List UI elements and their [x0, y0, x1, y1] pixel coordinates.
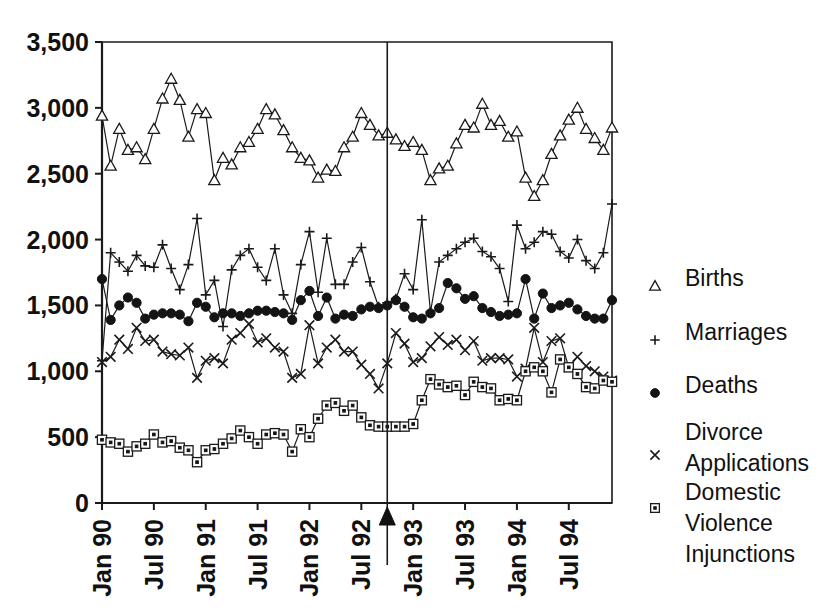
- marker-filled-circle: [547, 303, 556, 312]
- marker-cross: [581, 361, 591, 371]
- marker-square-dot: [412, 423, 415, 426]
- marker-filled-circle: [149, 310, 158, 319]
- marker-filled-circle: [339, 310, 348, 319]
- marker-plus: [417, 215, 427, 225]
- marker-open-triangle: [459, 119, 470, 129]
- marker-square-dot: [109, 441, 112, 444]
- marker-filled-circle: [452, 284, 461, 293]
- marker-cross: [201, 356, 211, 366]
- marker-open-triangle: [606, 122, 617, 132]
- marker-plus: [270, 244, 280, 254]
- marker-square-dot: [602, 379, 605, 382]
- marker-filled-circle: [478, 303, 487, 312]
- marker-plus: [607, 199, 617, 209]
- x-tick-label: Jan 93: [399, 519, 427, 597]
- marker-square-dot: [446, 386, 449, 389]
- marker-open-triangle: [96, 110, 107, 120]
- marker-filled-circle: [175, 310, 184, 319]
- marker-square-dot: [135, 445, 138, 448]
- marker-square-dot: [334, 402, 337, 405]
- marker-plus: [261, 275, 271, 285]
- marker-filled-circle: [374, 303, 383, 312]
- marker-filled-circle: [460, 294, 469, 303]
- marker-open-triangle: [537, 175, 548, 185]
- marker-cross: [287, 373, 297, 383]
- marker-square-dot: [464, 394, 467, 397]
- series-layer: [96, 73, 617, 466]
- marker-cross: [538, 357, 548, 367]
- marker-filled-circle: [435, 303, 444, 312]
- marker-filled-circle: [538, 289, 547, 298]
- multi-series-line-chart: 05001,0001,5002,0002,5003,0003,500 Jan 9…: [0, 0, 820, 614]
- marker-square-dot: [196, 461, 199, 464]
- legend-item-births[interactable]: Births: [650, 265, 744, 291]
- marker-plus: [235, 250, 245, 260]
- marker-square-dot: [360, 416, 363, 419]
- marker-filled-circle: [590, 314, 599, 323]
- marker-filled-circle: [236, 311, 245, 320]
- x-axis-tick-group: Jan 90Jul 90Jan 91Jul 91Jan 92Jul 92Jan …: [88, 503, 583, 597]
- marker-filled-circle: [253, 306, 262, 315]
- marker-filled-circle: [417, 314, 426, 323]
- marker-square-dot: [438, 383, 441, 386]
- marker-filled-circle: [607, 296, 616, 305]
- marker-cross: [279, 347, 289, 357]
- marker-cross: [132, 323, 142, 333]
- marker-square-dot: [481, 386, 484, 389]
- marker-square-dot: [567, 366, 570, 369]
- marker-filled-circle: [495, 311, 504, 320]
- marker-square-dot: [282, 433, 285, 436]
- marker-plus: [365, 277, 375, 287]
- marker-filled-circle: [167, 309, 176, 318]
- series-divorce-applications: [97, 319, 617, 393]
- marker-filled-circle: [409, 313, 418, 322]
- marker-plus: [503, 296, 513, 306]
- marker-filled-circle: [573, 305, 582, 314]
- marker-plus: [486, 252, 496, 262]
- marker-open-triangle: [347, 131, 358, 141]
- marker-filled-circle: [512, 309, 521, 318]
- marker-plus: [304, 227, 314, 237]
- marker-square-dot: [118, 442, 121, 445]
- marker-square-dot: [421, 399, 424, 402]
- marker-plus: [322, 233, 332, 243]
- legend-item-deaths[interactable]: Deaths: [651, 372, 758, 398]
- marker-open-triangle: [650, 281, 661, 290]
- marker-cross: [443, 340, 453, 350]
- marker-cross: [192, 373, 202, 383]
- marker-square-dot: [291, 450, 294, 453]
- marker-plus: [495, 264, 505, 274]
- legend-label: Injunctions: [685, 541, 795, 567]
- marker-filled-circle: [357, 305, 366, 314]
- marker-filled-circle: [314, 311, 323, 320]
- series-deaths: [97, 274, 616, 325]
- marker-cross: [218, 359, 228, 369]
- marker-open-triangle: [278, 125, 289, 135]
- marker-plus: [408, 285, 418, 295]
- marker-square-dot: [524, 370, 527, 373]
- marker-filled-circle: [530, 314, 539, 323]
- marker-cross: [650, 450, 659, 459]
- marker-filled-circle: [210, 313, 219, 322]
- marker-filled-circle: [599, 314, 608, 323]
- marker-square-dot: [187, 449, 190, 452]
- marker-open-triangle: [555, 130, 566, 140]
- marker-square-dot: [265, 433, 268, 436]
- legend-item-marriages[interactable]: Marriages: [650, 319, 787, 345]
- legend-item-domestic-violence-injunctions[interactable]: DomesticViolenceInjunctions: [651, 479, 795, 567]
- marker-square-dot: [325, 404, 328, 407]
- marker-plus: [296, 260, 306, 270]
- legend-label: Births: [685, 265, 744, 291]
- y-tick-label: 2,500: [26, 160, 89, 188]
- legend-item-divorce-applications[interactable]: DivorceApplications: [650, 419, 809, 476]
- marker-open-triangle: [451, 138, 462, 148]
- series-domestic-violence-injunctions: [97, 355, 616, 467]
- marker-filled-circle: [443, 278, 452, 287]
- marker-square-dot: [576, 373, 579, 376]
- marker-cross: [236, 328, 246, 338]
- marker-square-dot: [230, 437, 233, 440]
- legend-label: Applications: [685, 450, 809, 476]
- marker-open-triangle: [529, 191, 540, 201]
- marker-cross: [331, 335, 341, 345]
- marker-plus: [348, 257, 358, 267]
